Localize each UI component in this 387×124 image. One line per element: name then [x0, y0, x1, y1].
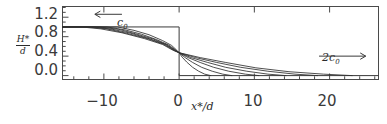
dam-break-profile-figure: H* d 1.2 0.8 0.4 0.0 −10 0 10 20 x*/d c0…	[0, 0, 387, 124]
profile-curve	[63, 27, 318, 76]
profile-curve	[63, 27, 353, 76]
plot-area	[0, 0, 387, 124]
profile-curve	[63, 27, 286, 76]
initial-step-profile	[63, 27, 379, 76]
surface-profile-curves	[63, 27, 353, 76]
axes-frame	[63, 7, 379, 80]
